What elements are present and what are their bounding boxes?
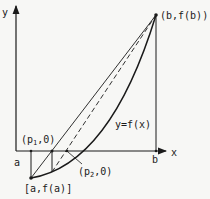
regula-falsi-diagram: y x a b (b,f(b)) [a,f(a)] y=f(x) (p1,0) … (0, 0, 210, 199)
label-b-fb: (b,f(b)) (160, 10, 208, 21)
p1-tail: ,0) (37, 134, 55, 145)
curve-label: y=f(x) (115, 119, 151, 130)
tick-label-b: b (152, 154, 158, 165)
p1-base: (p (21, 134, 33, 145)
point-p2 (66, 150, 69, 153)
label-p1: (p1,0) (21, 134, 55, 147)
y-axis-label: y (2, 7, 8, 18)
secant-line-2-dashed (52, 15, 156, 172)
tick-label-a: a (14, 157, 20, 168)
point-p1 (51, 150, 54, 153)
tick-a (30, 150, 33, 153)
label-p2: (p2,0) (78, 166, 112, 179)
tick-b (155, 150, 158, 153)
x-axis-label: x (171, 147, 177, 158)
point-b-fb (154, 13, 158, 17)
p2-tail: ,0) (94, 166, 112, 177)
p2-base: (p (78, 166, 90, 177)
label-a-fa: [a,f(a)] (24, 183, 72, 194)
point-a-fa (29, 176, 33, 180)
secant-line-1 (31, 15, 156, 178)
